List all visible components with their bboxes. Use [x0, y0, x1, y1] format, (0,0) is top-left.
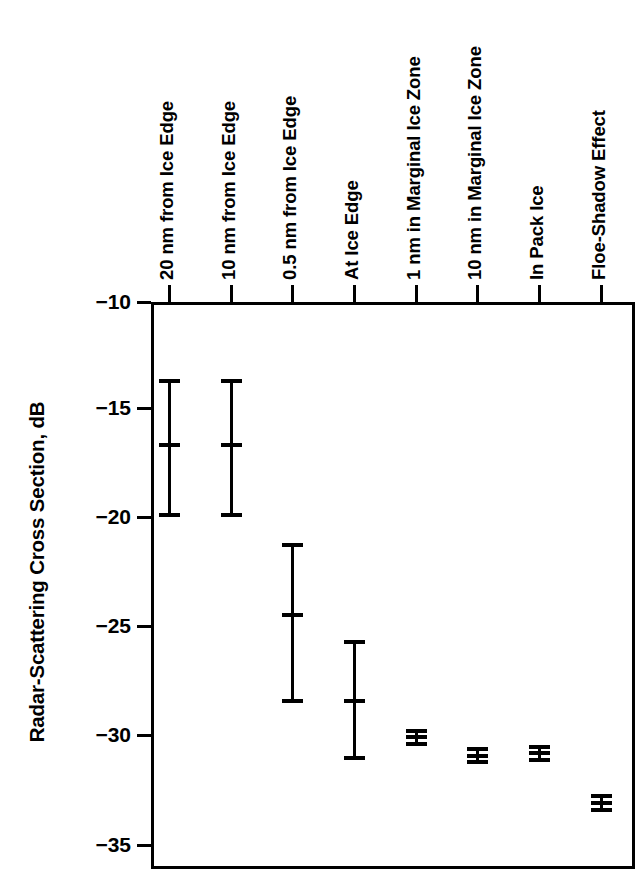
x-tick-mark-1 [230, 285, 233, 302]
error-bar-lower-cap [467, 760, 488, 764]
data-point-marker [221, 443, 242, 447]
x-tick-mark-6 [538, 285, 541, 302]
data-point-marker [467, 754, 488, 758]
error-bar-lower-cap [529, 758, 550, 762]
data-point-marker [282, 613, 303, 617]
y-tick-mark-20 [137, 516, 151, 519]
x-label-anchor-0: 20 nm from Ice Edge [178, 0, 179, 280]
y-tick-label-20: −20 [11, 506, 131, 527]
x-tick-mark-3 [353, 285, 356, 302]
error-bar-upper-cap [282, 543, 303, 547]
error-bar-stem [291, 545, 294, 701]
y-tick-mark-25 [137, 625, 151, 628]
y-tick-20: −20 [0, 506, 131, 528]
data-point-marker [406, 735, 427, 739]
x-tick-mark-7 [600, 285, 603, 302]
error-bar-3 [344, 640, 365, 760]
x-tick-label-0: 20 nm from Ice Edge [156, 101, 178, 280]
x-tick-label-7: Floe-Shadow Effect [588, 110, 610, 280]
error-bar-stem [168, 381, 171, 515]
error-bar-upper-cap [467, 747, 488, 751]
y-tick-label-15: −15 [11, 397, 131, 418]
data-point-marker [344, 699, 365, 703]
x-tick-label-1: 10 nm from Ice Edge [218, 101, 240, 280]
error-bar-7 [591, 794, 612, 812]
y-tick-35: −35 [0, 834, 131, 856]
error-bar-upper-cap [221, 379, 242, 383]
y-tick-10: −10 [0, 291, 131, 313]
x-tick-mark-5 [476, 285, 479, 302]
x-tick-label-3: At Ice Edge [341, 180, 363, 280]
y-tick-mark-35 [137, 844, 151, 847]
error-bar-4 [406, 729, 427, 747]
x-tick-mark-0 [168, 285, 171, 302]
x-label-anchor-5: 10 nm in Marginal Ice Zone [486, 0, 487, 280]
error-bar-upper-cap [406, 729, 427, 733]
error-bar-5 [467, 747, 488, 765]
y-tick-15: −15 [0, 397, 131, 419]
y-tick-label-30: −30 [11, 724, 131, 745]
x-tick-label-2: 0.5 nm from Ice Edge [279, 96, 301, 280]
y-tick-mark-10 [137, 301, 151, 304]
x-tick-label-4: 1 nm in Marginal Ice Zone [403, 56, 425, 280]
y-tick-25: −25 [0, 615, 131, 637]
y-tick-label-25: −25 [11, 615, 131, 636]
data-point-marker [591, 801, 612, 805]
error-bar-upper-cap [529, 745, 550, 749]
x-label-anchor-1: 10 nm from Ice Edge [240, 0, 241, 280]
x-label-anchor-7: Floe-Shadow Effect [610, 0, 611, 280]
error-bar-lower-cap [221, 513, 242, 517]
error-bar-lower-cap [159, 513, 180, 517]
error-bar-upper-cap [344, 640, 365, 644]
y-tick-label-35: −35 [11, 834, 131, 855]
error-bar-lower-cap [591, 808, 612, 812]
y-tick-label-10: −10 [11, 291, 131, 312]
error-bar-lower-cap [344, 756, 365, 760]
x-label-anchor-3: At Ice Edge [363, 0, 364, 280]
error-bar-lower-cap [282, 699, 303, 703]
y-tick-mark-15 [137, 407, 151, 410]
y-tick-mark-30 [137, 734, 151, 737]
error-bar-stem [230, 381, 233, 515]
radar-cross-section-chart: Radar-Scattering Cross Section, dB −10 −… [0, 0, 641, 890]
error-bar-2 [282, 543, 303, 703]
error-bar-lower-cap [406, 742, 427, 746]
error-bar-0 [159, 379, 180, 517]
x-label-anchor-6: In Pack Ice [548, 0, 549, 280]
data-point-marker [159, 443, 180, 447]
x-tick-mark-2 [291, 285, 294, 302]
error-bar-6 [529, 745, 550, 763]
x-label-anchor-2: 0.5 nm from Ice Edge [301, 0, 302, 280]
x-tick-label-5: 10 nm in Marginal Ice Zone [464, 46, 486, 280]
x-label-anchor-4: 1 nm in Marginal Ice Zone [425, 0, 426, 280]
y-tick-30: −30 [0, 724, 131, 746]
x-tick-label-6: In Pack Ice [526, 185, 548, 280]
error-bar-upper-cap [591, 794, 612, 798]
error-bar-1 [221, 379, 242, 517]
error-bar-upper-cap [159, 379, 180, 383]
x-tick-mark-4 [415, 285, 418, 302]
data-point-marker [529, 751, 550, 755]
